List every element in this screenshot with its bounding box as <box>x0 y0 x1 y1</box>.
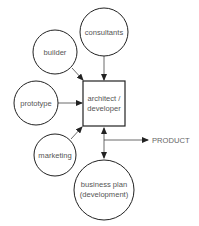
product-label: PRODUCT <box>152 136 190 145</box>
marketing-label: marketing <box>38 151 71 160</box>
builder-label: builder <box>44 48 67 57</box>
business-plan-label-line1: business plan <box>81 180 127 189</box>
prototype-label: prototype <box>20 99 52 108</box>
node-architect-developer: architect / developer <box>83 81 125 126</box>
node-builder: builder <box>33 30 77 74</box>
node-consultants: consultants <box>80 8 128 56</box>
edge-marketing-to-center <box>71 127 82 139</box>
consultants-label: consultants <box>85 28 124 37</box>
architect-developer-label-line1: architect / <box>88 94 122 103</box>
diagram-canvas: consultants builder prototype architect … <box>0 0 199 226</box>
node-business-plan: business plan (development) <box>74 160 134 220</box>
node-prototype: prototype <box>14 81 58 125</box>
edge-builder-to-center <box>72 68 83 80</box>
business-plan-label-line2: (development) <box>80 190 129 199</box>
node-marketing: marketing <box>34 134 76 176</box>
architect-developer-label-line2: developer <box>87 104 121 113</box>
